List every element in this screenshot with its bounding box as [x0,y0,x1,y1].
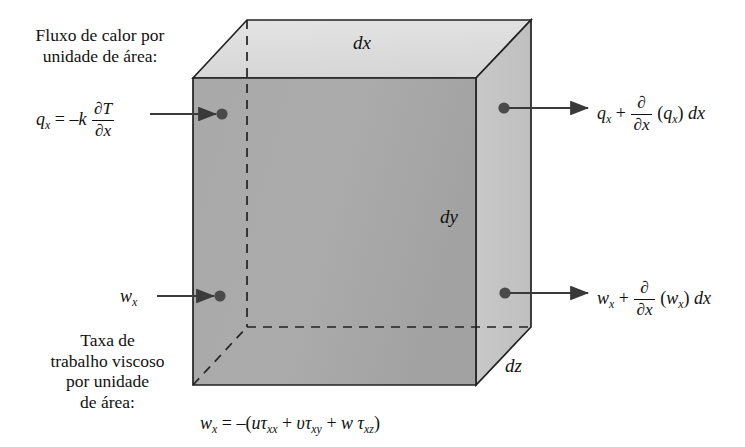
heat-flux-out-plus: + [616,103,626,123]
heat-flux-in-derivative-numerator: ∂T [92,99,114,120]
viscous-work-out-point [499,287,510,298]
cube-right-face [476,20,531,385]
viscous-definition-minus-paren: –( [236,413,251,433]
dimension-label-dy: dy [440,206,458,228]
viscous-work-out-paren-close: ) [683,288,689,308]
viscous-work-out-formula: wx + ∂ ∂x (wx) dx [597,279,711,321]
heat-flux-in-equals: = [55,109,65,129]
heat-flux-out-formula: qx + ∂ ∂x (qx) dx [597,94,705,136]
heat-flux-caption: Fluxo de calor por unidade de área: [10,25,190,66]
viscous-definition-term3-subscript: xz [364,422,374,436]
viscous-work-in-subscript: x [132,295,137,309]
viscous-definition-close-paren: ) [374,413,380,433]
viscous-work-out-operator-denominator: ∂x [634,300,654,320]
viscous-definition-plus-1: + [282,413,292,433]
heat-flux-in-derivative: ∂T ∂x [92,99,114,141]
heat-flux-in-formula: qx = –k ∂T ∂x [36,100,115,142]
heat-flux-in-derivative-denominator: ∂x [92,121,114,141]
viscous-work-caption-line-1: Taxa de [20,330,195,351]
viscous-definition-term2-subscript: xy [311,422,322,436]
heat-flux-in-subscript: x [45,118,50,132]
viscous-definition-plus-2: + [326,413,336,433]
heat-flux-out-operator-numerator: ∂ [631,93,651,114]
heat-flux-out-operand-symbol: q [663,103,672,123]
viscous-work-in-symbol: w [120,286,132,306]
viscous-work-caption-line-2: trabalho viscoso [20,351,195,372]
heat-flux-out-operator: ∂ ∂x [631,93,651,135]
heat-flux-caption-line-1: Fluxo de calor por [10,25,190,46]
heat-flux-caption-line-2: unidade de área: [10,46,190,67]
viscous-definition-lhs-subscript: x [212,422,217,436]
viscous-work-caption-line-4: de área: [20,392,195,413]
viscous-definition-equals: = [222,413,232,433]
viscous-work-out-operator-numerator: ∂ [634,278,654,299]
viscous-work-in-label: wx [120,286,137,309]
viscous-work-out-differential: dx [694,288,711,308]
viscous-definition-term2-velocity: υ [297,413,305,433]
heat-flux-in-coefficient: –k [69,109,86,129]
viscous-work-out-operator: ∂ ∂x [634,278,654,320]
viscous-definition-term3-velocity: w [341,413,353,433]
heat-flux-out-operator-denominator: ∂x [631,115,651,135]
viscous-work-out-plus: + [619,288,629,308]
heat-flux-in-point [216,108,227,119]
dimension-label-dz: dz [505,355,522,377]
viscous-work-out-base-subscript: x [609,297,614,311]
viscous-work-caption: Taxa de trabalho viscoso por unidade de … [20,330,195,413]
viscous-work-caption-line-3: por unidade [20,371,195,392]
heat-flux-out-differential: dx [688,103,705,123]
viscous-work-definition-formula: wx = –(uτxx + υτxy + w τxz) [200,413,380,436]
heat-flux-out-base-subscript: x [606,112,611,126]
heat-flux-out-base-symbol: q [597,103,606,123]
heat-flux-out-point [498,102,509,113]
viscous-work-out-operand-symbol: w [666,288,678,308]
viscous-definition-lhs-symbol: w [200,413,212,433]
viscous-work-out-base-symbol: w [597,288,609,308]
viscous-definition-term1-subscript: xx [267,422,278,436]
cube-front-face [193,78,476,385]
dimension-label-dx: dx [353,32,371,54]
viscous-work-in-point [214,290,225,301]
heat-flux-in-symbol: q [36,109,45,129]
heat-flux-out-paren-close: ) [677,103,683,123]
control-volume-diagram: dx dy dz Fluxo de calor por unidade de á… [0,0,745,447]
